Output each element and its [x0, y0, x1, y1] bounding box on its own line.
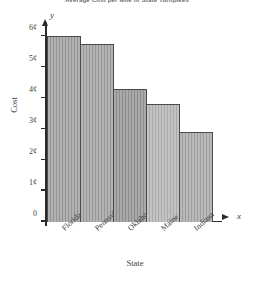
x-axis-category-label: Indiana — [192, 210, 216, 233]
y-axis-tick-label: 0 — [11, 208, 37, 217]
y-axis-tick-label: 5¢ — [11, 54, 37, 63]
bar: Maine — [146, 104, 180, 221]
y-axis-tick — [41, 159, 46, 160]
bar: Florida — [47, 36, 81, 221]
y-axis-tick-label: 2¢ — [11, 146, 37, 155]
y-axis-title: Cost — [9, 97, 19, 113]
bar-chart: Average Cost per Mile of State Turnpikes… — [0, 0, 254, 281]
plot-area: y x 01¢2¢3¢4¢5¢6¢ FloridaPennsylvaniaOkl… — [45, 18, 225, 228]
x-axis-arrow-icon — [222, 214, 229, 220]
y-axis-tick — [41, 35, 46, 36]
y-axis-tick-label: 3¢ — [11, 115, 37, 124]
y-axis-tick — [41, 220, 46, 221]
bar-series: FloridaPennsylvaniaOklahomaMaineIndiana — [47, 18, 214, 222]
bar: Indiana — [179, 132, 213, 222]
y-axis-tick-label: 4¢ — [11, 84, 37, 93]
y-axis-tick — [41, 128, 46, 129]
x-axis-title: State — [45, 258, 225, 268]
y-axis-tick — [41, 97, 46, 98]
chart-title: Average Cost per Mile of State Turnpikes — [0, 0, 254, 3]
bar: Oklahoma — [113, 89, 147, 222]
y-axis-tick-label: 1¢ — [11, 177, 37, 186]
y-axis-tick-label: 6¢ — [11, 23, 37, 32]
y-axis-tick — [41, 66, 46, 67]
bar: Pennsylvania — [80, 44, 114, 222]
y-axis-tick — [41, 189, 46, 190]
x-axis-variable-label: x — [237, 211, 241, 221]
